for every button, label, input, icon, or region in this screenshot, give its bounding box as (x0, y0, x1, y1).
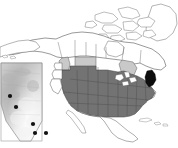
state-washington (54, 63, 62, 70)
site-marker (31, 122, 35, 126)
site-marker (14, 105, 18, 109)
region-alaska (0, 40, 40, 57)
map-canvas (0, 0, 178, 148)
map-figure (0, 0, 178, 148)
aleutian-islands (2, 55, 16, 59)
caribbean-islands (139, 118, 168, 126)
state-oregon (52, 70, 62, 79)
unshaded-states-pacific (50, 63, 62, 94)
site-marker (44, 131, 48, 135)
nevada-inset-map (0, 60, 48, 144)
site-marker (33, 131, 37, 135)
state-california-north (50, 79, 62, 94)
site-marker (8, 94, 12, 98)
